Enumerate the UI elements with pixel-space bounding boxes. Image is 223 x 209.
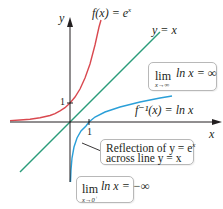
x-axis-arrow-icon (212, 119, 222, 125)
lim-word: lim (82, 182, 98, 196)
x-axis-label: x (209, 128, 214, 140)
exp-curve-label: f(x) = ex (92, 7, 131, 19)
limit-zero-box: lim x→0+ ln x = −∞ (76, 176, 134, 203)
limit-infinity-box: lim x→∞ ln x = ∞ (148, 62, 217, 91)
lim-subscript-sup: + (95, 195, 98, 200)
inverse-function-diagram: y x 1 1 f(x) = ex y = x f⁻¹(x) = ln x li… (0, 0, 223, 209)
y-axis-arrow-icon (67, 17, 73, 27)
lim-subscript: x→∞ (155, 82, 171, 89)
log-curve-label: f⁻¹(x) = ln x (135, 104, 193, 116)
y-axis-label: y (59, 12, 64, 24)
y-tick-label: 1 (60, 97, 65, 107)
reflection-line2: across line y = x (106, 153, 181, 165)
reflection-exponent: x (192, 141, 195, 149)
limit-expression: ln x = −∞ (101, 180, 149, 192)
lim-subscript: x→0 (82, 196, 95, 203)
limit-lim: lim x→∞ (155, 67, 171, 89)
identity-line-label: y = x (152, 24, 177, 36)
limit-lim: lim x→0+ (82, 180, 98, 204)
reflection-connector (82, 143, 101, 151)
exp-label-text: f(x) = e (92, 6, 128, 20)
exp-label-exponent: x (128, 6, 131, 14)
reflection-box: Reflection of y = ex across line y = x (100, 139, 194, 165)
x-tick-label: 1 (87, 127, 92, 137)
limit-expression: ln x = ∞ (176, 67, 216, 79)
